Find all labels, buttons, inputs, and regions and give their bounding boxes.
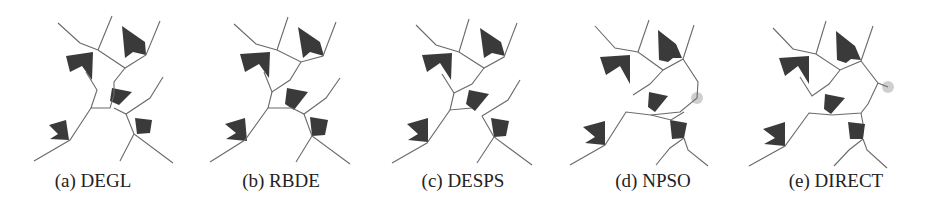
panel-desps: (c) DESPS xyxy=(370,0,556,223)
path-plot-npso xyxy=(560,0,750,170)
path-plot-desps xyxy=(370,0,560,170)
caption-npso: (d) NPSO xyxy=(560,170,746,192)
path-plot-rbde xyxy=(188,0,378,170)
caption-degl: (a) DEGL xyxy=(0,170,186,192)
panel-rbde: (b) RBDE xyxy=(188,0,374,223)
caption-rbde: (b) RBDE xyxy=(188,170,374,192)
panel-npso: (d) NPSO xyxy=(560,0,746,223)
caption-direct: (e) DIRECT xyxy=(743,170,929,192)
path-plot-degl xyxy=(0,0,190,170)
path-plot-direct xyxy=(743,0,933,170)
panel-direct: (e) DIRECT xyxy=(743,0,929,223)
caption-desps: (c) DESPS xyxy=(370,170,556,192)
panel-degl: (a) DEGL xyxy=(0,0,186,223)
